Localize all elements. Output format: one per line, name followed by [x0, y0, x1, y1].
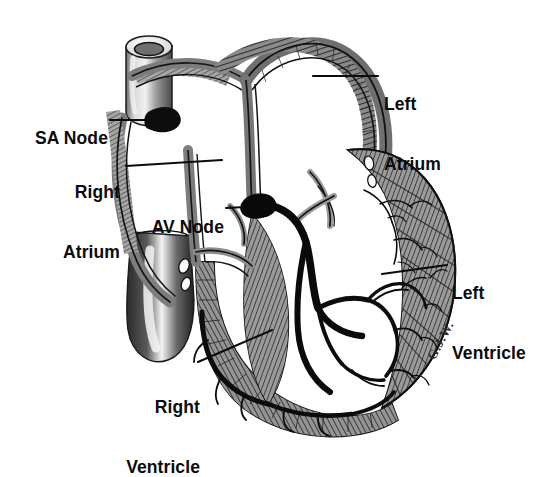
label-left-atrium: Left Atrium	[384, 54, 441, 214]
label-av-node: AV Node	[60, 197, 224, 257]
leader-av-node	[226, 207, 246, 208]
label-right-ventricle: Right Ventricle	[40, 357, 200, 477]
label-left-ventricle: Left Ventricle	[452, 243, 526, 403]
